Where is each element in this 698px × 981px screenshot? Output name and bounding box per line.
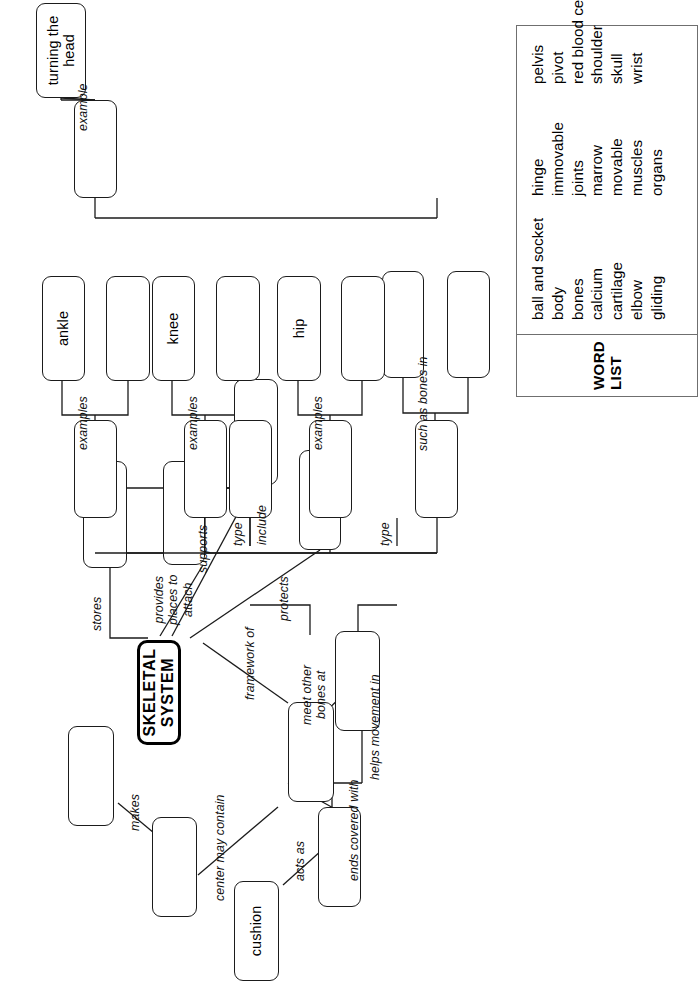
word-list-item: calcium xyxy=(587,196,607,320)
word-list-item: marrow xyxy=(587,84,607,196)
word-list-item: body xyxy=(548,196,568,320)
label-makes: makes xyxy=(128,794,142,831)
label-examples-2: examples xyxy=(186,396,200,450)
label-ends-covered-with: ends covered with xyxy=(347,779,361,881)
word-list-item: joints xyxy=(568,84,588,196)
label-type-upper: type xyxy=(378,522,392,546)
label-provides-places-to-attach: provides places to attach xyxy=(152,575,195,626)
word-list-item: muscles xyxy=(627,84,647,196)
word-list-columns: ball and socket body bones calcium carti… xyxy=(517,0,697,334)
word-list-item: hinge xyxy=(528,84,548,196)
label-framework-of: framework of xyxy=(243,627,257,700)
label-acts-as: acts as xyxy=(293,841,307,881)
word-list-title: WORD LIST xyxy=(517,334,697,396)
label-stores: stores xyxy=(90,597,104,631)
label-include: include xyxy=(255,505,269,545)
label-type-lower: type xyxy=(231,522,245,546)
word-list-column-1: ball and socket body bones calcium carti… xyxy=(528,196,666,320)
label-example-4: example xyxy=(76,83,90,131)
word-list-item: movable xyxy=(607,84,627,196)
label-supports: supports xyxy=(196,525,210,573)
label-center-may-contain: center may contain xyxy=(213,795,227,902)
word-list-panel: WORD LIST ball and socket body bones cal… xyxy=(516,25,698,397)
word-list-item: bones xyxy=(568,196,588,320)
word-list-item: immovable xyxy=(548,84,568,196)
word-list-item: red blood cells xyxy=(568,0,588,84)
word-list-column-2: hinge immovable joints marrow movable mu… xyxy=(528,84,666,196)
word-list-item: gliding xyxy=(647,196,667,320)
label-examples-3: examples xyxy=(76,396,90,450)
label-examples-1: examples xyxy=(311,396,325,450)
word-list-item: skull xyxy=(607,0,627,84)
word-list-item: pivot xyxy=(548,0,568,84)
label-helps-movement-in: helps movement in xyxy=(368,674,382,780)
word-list-item: pelvis xyxy=(528,0,548,84)
word-list-item: cartilage xyxy=(607,196,627,320)
label-meet-other-bones-at: meet other bones at xyxy=(300,665,329,725)
label-such-as-bones-in: such as bones in xyxy=(416,356,430,451)
label-protects: protects xyxy=(277,576,291,621)
word-list-item: organs xyxy=(647,84,667,196)
word-list-item: wrist xyxy=(627,0,647,84)
word-list-item: shoulder xyxy=(587,0,607,84)
word-list-column-3: pelvis pivot red blood cells shoulder sk… xyxy=(528,0,647,84)
word-list-item: elbow xyxy=(627,196,647,320)
word-list-item: ball and socket xyxy=(528,196,548,320)
